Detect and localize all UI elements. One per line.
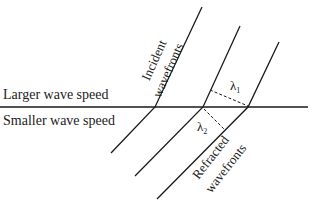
upper-medium-label: Larger wave speed bbox=[3, 87, 108, 102]
refraction-diagram: Larger wave speed Smaller wave speed Inc… bbox=[0, 0, 314, 211]
lower-medium-label: Smaller wave speed bbox=[3, 113, 115, 128]
lambda1-dashed-marker bbox=[210, 90, 248, 106]
lambda2-label: λ2 bbox=[197, 119, 207, 136]
lambda1-label: λ1 bbox=[230, 78, 240, 95]
